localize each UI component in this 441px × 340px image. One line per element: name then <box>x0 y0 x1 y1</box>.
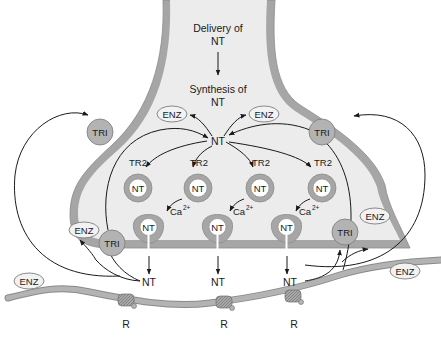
svg-text:Ca: Ca <box>170 206 183 217</box>
receptor-label-3: R <box>290 318 298 330</box>
enzyme-cytoplasm-right: ENZ <box>249 106 279 122</box>
enzyme-terminal-lower-right: ENZ <box>360 208 390 224</box>
vesicle-nt-label: NT <box>316 183 329 194</box>
svg-text:2+: 2+ <box>246 204 254 211</box>
tr2-label: TR2 <box>129 157 147 168</box>
synapse-diagram: R R R Delivery of NT Synthesis of NT ENZ… <box>0 0 441 340</box>
enzyme-terminal-lower-left: ENZ <box>69 222 99 238</box>
svg-text:NT: NT <box>280 222 293 233</box>
tr2-label: TR2 <box>314 157 332 168</box>
svg-text:TRI: TRI <box>314 127 329 138</box>
svg-text:ENZ: ENZ <box>396 266 415 277</box>
synthesis-label-line2: NT <box>211 96 226 108</box>
enzyme-cytoplasm-left: ENZ <box>157 106 187 122</box>
tr2-label: TR2 <box>252 157 270 168</box>
synthesis-label-line1: Synthesis of <box>189 83 246 95</box>
vesicle-nt-label: NT <box>192 183 205 194</box>
transporter-tri-upper-left: TRI <box>87 119 113 145</box>
svg-text:TRI: TRI <box>92 127 107 138</box>
transporter-tri-lower-right: TRI <box>332 219 358 245</box>
svg-text:2+: 2+ <box>183 204 191 211</box>
enzyme-postsynaptic-left: ENZ <box>14 273 44 289</box>
vesicle-nt-label: NT <box>132 183 145 194</box>
release-site-1: NT NT <box>133 215 163 289</box>
released-nt-label: NT <box>211 276 226 288</box>
svg-text:ENZ: ENZ <box>20 276 39 287</box>
svg-text:TRI: TRI <box>104 238 119 249</box>
receptor-label-2: R <box>220 318 228 330</box>
released-nt-label: NT <box>283 276 298 288</box>
svg-text:ENZ: ENZ <box>366 211 385 222</box>
svg-text:2+: 2+ <box>312 204 320 211</box>
delivery-label-line1: Delivery of <box>193 22 243 34</box>
receptor-1: R <box>118 294 137 330</box>
transporter-tri-lower-left: TRI <box>99 230 125 256</box>
svg-text:ENZ: ENZ <box>163 109 182 120</box>
svg-text:Ca: Ca <box>299 206 312 217</box>
svg-text:TRI: TRI <box>337 227 352 238</box>
enzyme-postsynaptic-right: ENZ <box>390 263 420 279</box>
svg-text:NT: NT <box>142 222 155 233</box>
central-nt-label: NT <box>211 135 226 147</box>
transporter-tri-upper-right: TRI <box>309 119 335 145</box>
receptor-label-1: R <box>122 318 130 330</box>
svg-text:Ca: Ca <box>233 206 246 217</box>
delivery-label-line2: NT <box>211 35 226 47</box>
vesicle-nt-label: NT <box>254 183 267 194</box>
release-site-2: NT NT <box>202 215 232 289</box>
release-site-3: NT NT <box>271 215 301 289</box>
released-nt-label: NT <box>142 276 157 288</box>
svg-text:NT: NT <box>211 222 224 233</box>
terminal-cytoplasm <box>78 0 400 240</box>
receptor-2: R <box>216 296 235 330</box>
receptor-3: R <box>285 290 304 330</box>
svg-text:ENZ: ENZ <box>255 109 274 120</box>
tr2-label: TR2 <box>190 157 208 168</box>
svg-text:ENZ: ENZ <box>75 225 94 236</box>
